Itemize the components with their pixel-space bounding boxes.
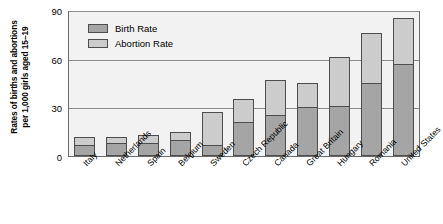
y-axis-title: Rates of births and abortions per 1,000 … xyxy=(9,0,39,163)
legend-label-birth-rate: Birth Rate xyxy=(115,23,157,34)
bar-group[interactable] xyxy=(233,99,254,156)
plot-area: Birth Rate Abortion Rate xyxy=(68,11,420,157)
legend: Birth Rate Abortion Rate xyxy=(83,18,181,55)
legend-swatch-birth-rate xyxy=(88,24,108,33)
bar-segment-abortion-rate[interactable] xyxy=(233,99,254,122)
y-tick-0: 0 xyxy=(40,152,62,163)
bar-segment-abortion-rate[interactable] xyxy=(170,132,191,140)
bar-group[interactable] xyxy=(393,18,414,156)
bar-group[interactable] xyxy=(297,83,318,156)
y-axis-title-line-2: per 1,000 girls aged 15–19 xyxy=(20,0,31,163)
x-axis-tick-labels: ItalyNetherlandsSpainBelgiumSwedenCzech … xyxy=(68,157,420,224)
legend-swatch-abortion-rate xyxy=(88,39,108,48)
bar-segment-abortion-rate[interactable] xyxy=(297,83,318,107)
y-axis-tick-labels: 0306090 xyxy=(36,0,62,224)
y-axis-title-line-1: Rates of births and abortions xyxy=(9,0,20,163)
bar-segment-abortion-rate[interactable] xyxy=(265,80,286,116)
bar-segment-abortion-rate[interactable] xyxy=(202,112,223,144)
bar-segment-abortion-rate[interactable] xyxy=(74,137,95,145)
bar-group[interactable] xyxy=(361,33,382,156)
legend-item-abortion-rate: Abortion Rate xyxy=(88,36,173,51)
legend-label-abortion-rate: Abortion Rate xyxy=(115,38,173,49)
bar-segment-abortion-rate[interactable] xyxy=(329,57,350,106)
y-tick-30: 30 xyxy=(40,103,62,114)
bar-segment-abortion-rate[interactable] xyxy=(361,33,382,83)
legend-item-birth-rate: Birth Rate xyxy=(88,21,173,36)
y-tick-60: 60 xyxy=(40,54,62,65)
bar-segment-abortion-rate[interactable] xyxy=(393,18,414,63)
y-tick-90: 90 xyxy=(40,6,62,17)
